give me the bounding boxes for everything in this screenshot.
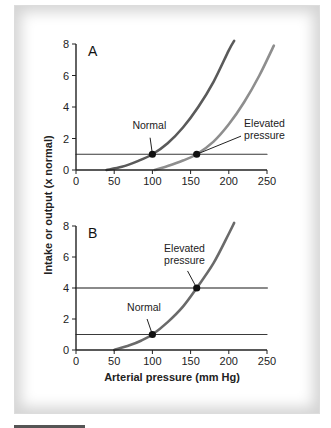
x-axis-title: Arterial pressure (mm Hg) bbox=[104, 371, 240, 383]
annotation-label: pressure bbox=[164, 254, 205, 266]
annotation-label: Normal bbox=[127, 301, 161, 313]
chart-canvas: 05010015020025002468ANormalElevatedpress… bbox=[0, 0, 331, 428]
y-tick-label: 4 bbox=[63, 282, 69, 294]
x-tick-label: 200 bbox=[220, 355, 238, 367]
equilibrium-point-elevated-pressure bbox=[193, 151, 200, 158]
panel-a-plot: 05010015020025002468ANormalElevatedpress… bbox=[63, 38, 285, 187]
x-tick-label: 0 bbox=[73, 355, 79, 367]
y-tick-label: 0 bbox=[63, 164, 69, 176]
annotation-label: Normal bbox=[132, 119, 166, 131]
y-tick-label: 8 bbox=[63, 220, 69, 232]
y-tick-label: 4 bbox=[63, 101, 69, 113]
y-tick-label: 6 bbox=[63, 70, 69, 82]
annotation-label: Elevated bbox=[164, 242, 205, 254]
x-tick-label: 150 bbox=[181, 355, 199, 367]
x-tick-label: 0 bbox=[73, 175, 79, 187]
y-axis-title: Intake or output (x normal) bbox=[42, 135, 54, 275]
x-tick-label: 100 bbox=[143, 355, 161, 367]
equilibrium-point-normal bbox=[149, 331, 156, 338]
y-tick-label: 2 bbox=[63, 313, 69, 325]
panel-b-plot: 05010015020025002468BNormalElevatedpress… bbox=[63, 220, 276, 367]
equilibrium-point-normal bbox=[149, 151, 156, 158]
annotation-leader bbox=[197, 136, 241, 154]
y-tick-label: 8 bbox=[63, 38, 69, 50]
panel-letter: A bbox=[88, 43, 98, 59]
x-tick-label: 50 bbox=[108, 175, 120, 187]
series-line-renal-output-curve-normal- bbox=[107, 41, 235, 170]
y-tick-label: 2 bbox=[63, 133, 69, 145]
x-tick-label: 100 bbox=[143, 175, 161, 187]
x-tick-label: 200 bbox=[220, 175, 238, 187]
equilibrium-point-elevated-pressure bbox=[193, 284, 200, 291]
annotation-label: pressure bbox=[244, 129, 285, 141]
x-tick-label: 250 bbox=[258, 355, 276, 367]
y-tick-label: 6 bbox=[63, 251, 69, 263]
x-tick-label: 250 bbox=[258, 175, 276, 187]
x-tick-label: 50 bbox=[108, 355, 120, 367]
annotation-label: Elevated bbox=[244, 117, 285, 129]
x-tick-label: 150 bbox=[181, 175, 199, 187]
series-line-renal-output-curve-elevated-pressure- bbox=[155, 46, 274, 170]
panel-letter: B bbox=[88, 225, 97, 241]
y-tick-label: 0 bbox=[63, 344, 69, 356]
